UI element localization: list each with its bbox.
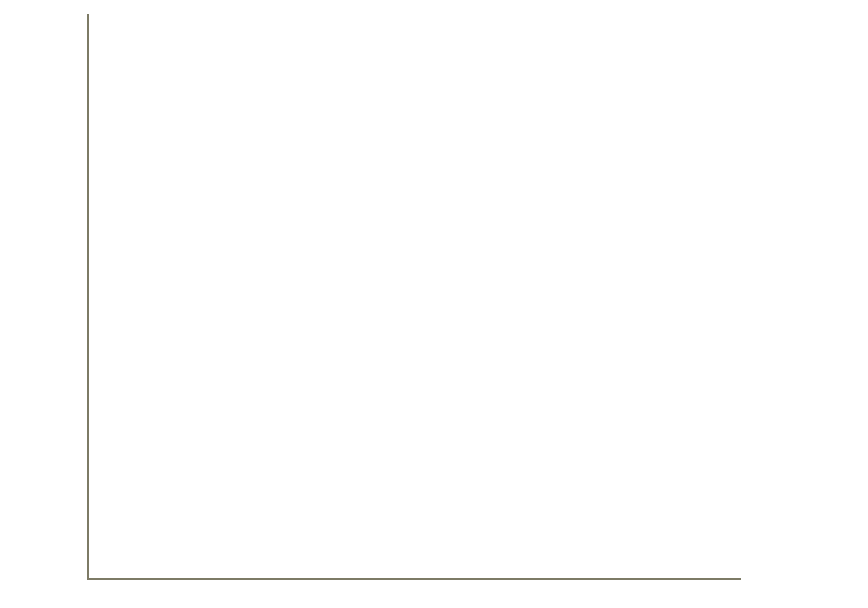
plot-area	[88, 14, 740, 578]
y-axis-tick-labels	[0, 0, 78, 608]
stacked-area-series	[88, 14, 740, 579]
area-chart	[0, 0, 868, 608]
